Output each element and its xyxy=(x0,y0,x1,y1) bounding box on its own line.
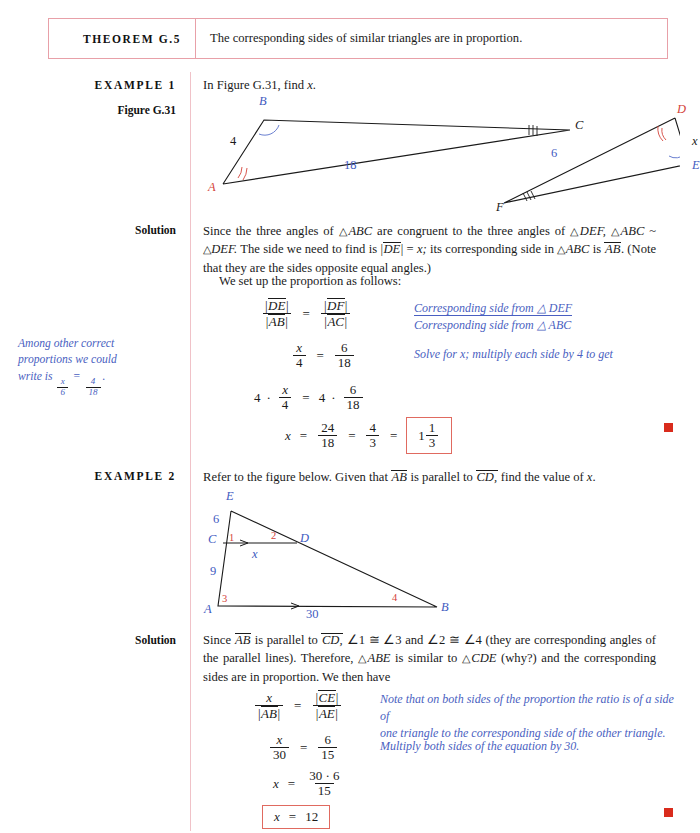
margin-note-fraction-1: x6 xyxy=(57,377,68,398)
eq2-rhs-num: 6 xyxy=(338,341,351,355)
ex2-eq2-rhs-fraction: 6 15 xyxy=(318,733,337,762)
angle-tick-f3-icon xyxy=(531,191,535,199)
ex2-eq2-rhs-num: 6 xyxy=(322,733,335,747)
example2-divider-rule xyxy=(190,463,191,831)
triangle-symbol-icon xyxy=(557,242,565,256)
sol1-tri4: DEF. xyxy=(211,242,237,256)
figure-example2: E C A D B 6 9 x 30 1 2 3 4 xyxy=(196,492,486,620)
eq4-fraction-2: 4 3 xyxy=(366,421,379,450)
eq4-equals-2: = xyxy=(348,428,355,444)
angle-arc-b-icon xyxy=(259,125,279,135)
example1-equation-1: |DE| |AB| = |DF| |AC| xyxy=(260,298,352,329)
figure-ex2-vertex-c: C xyxy=(208,532,216,547)
ex2-eq1-lhs-num: x xyxy=(263,691,275,705)
figure-ex2-vertex-e: E xyxy=(226,489,234,504)
ex2-answer-equals: = xyxy=(289,809,296,825)
eq2-rhs-fraction: 6 18 xyxy=(335,341,354,370)
eq3-dot-1: · xyxy=(267,390,271,406)
example2-annotation-1: Note that on both sides of the proportio… xyxy=(380,691,684,742)
eq3-rhs-num: 6 xyxy=(347,383,360,397)
eq2-lhs-den: 4 xyxy=(293,355,306,370)
eq3-lhs-den: 4 xyxy=(279,397,292,412)
example2-answer-row: x = 12 xyxy=(262,805,330,829)
answer1-den: 3 xyxy=(426,435,439,450)
figure-ex2-angle-4: 4 xyxy=(392,592,397,603)
figure-ex2-angle-3: 3 xyxy=(222,593,227,604)
sol1-seg7: its corresponding side in xyxy=(427,242,558,256)
theorem-label: THEOREM G.5 xyxy=(83,33,181,45)
example1-equation-4: x = 24 18 = 4 3 = 1 1 3 xyxy=(285,417,452,454)
sol1-tri3: ABC xyxy=(621,224,645,238)
eq4-fraction-1: 24 18 xyxy=(318,421,337,450)
eq2-lhs-fraction: x 4 xyxy=(293,341,306,370)
eq2-equals: = xyxy=(317,348,324,364)
sol1-x: x; xyxy=(417,242,427,256)
figure-g31-vertex-f: F xyxy=(496,200,504,215)
eq4-f1-num: 24 xyxy=(318,421,337,435)
ex2-eq1-rhs-num: |CE| xyxy=(312,690,341,705)
figure-g31-vertex-c: C xyxy=(575,118,583,133)
ex2-sol-seg2: is parallel to xyxy=(251,633,321,647)
ex2-sol-segment-ab: AB xyxy=(235,633,251,647)
triangle-symbol-icon xyxy=(611,224,621,238)
example1-solution-paragraph-1: Since the three angles of ABC are congru… xyxy=(203,222,656,277)
example1-prompt-pre: In Figure G.31, find xyxy=(203,78,307,92)
ex2-answer-variable: x xyxy=(274,809,280,825)
figure-ex2-angle-2: 2 xyxy=(271,530,276,541)
example1-prompt-post: . xyxy=(313,78,316,92)
figure-g31-side-4: 4 xyxy=(230,134,236,149)
figure-g31-vertex-d: D xyxy=(677,102,686,117)
eq3-rhs-fraction: 6 18 xyxy=(344,383,363,412)
example2-equation-1: x |AB| = |CE| |AE| xyxy=(253,690,343,721)
sol1-seg6: | = xyxy=(401,242,417,256)
eq1-lhs-den: |AB| xyxy=(263,313,291,329)
eq1-rhs-den: |AC| xyxy=(321,313,350,329)
figure-ex2-side-9: 9 xyxy=(210,564,216,579)
ex2-annot1-line1: Note that on both sides of the proportio… xyxy=(380,692,674,723)
eq3-equals: = xyxy=(302,390,309,406)
sol1-tri2: DEF, xyxy=(580,224,606,238)
answer1-num: 1 xyxy=(426,421,439,435)
ex2-eq3-fraction: 30 · 6 15 xyxy=(306,769,342,798)
example2-solution-label: Solution xyxy=(26,634,176,646)
eq4-f1-den: 18 xyxy=(318,435,337,450)
angle-tick-f2-icon xyxy=(527,192,531,200)
figure-ex2-side-30: 30 xyxy=(306,607,319,622)
sol1-seg5: The side we need to find is | xyxy=(237,242,383,256)
ex2-eq2-rhs-den: 15 xyxy=(318,747,337,762)
example1-equation-2: x 4 = 6 18 xyxy=(291,341,356,370)
margin-f1-den: 6 xyxy=(57,387,68,398)
example1-answer-box: 1 1 3 xyxy=(406,417,452,454)
sol1-seg8: is xyxy=(589,242,604,256)
angle-arc-e-icon xyxy=(669,154,680,158)
example1-label: EXAMPLE 1 xyxy=(26,79,176,91)
eq2-rhs-den: 18 xyxy=(335,355,354,370)
example2-label: EXAMPLE 2 xyxy=(26,470,176,482)
eq4-f2-num: 4 xyxy=(366,421,379,435)
margin-note-line2: proportions we could xyxy=(18,353,117,366)
triangle-abc-outline xyxy=(223,120,570,184)
theorem-label-cell: THEOREM G.5 xyxy=(49,19,196,58)
ex2-answer-value: 12 xyxy=(305,809,318,825)
eq1-lhs-num: |DE| xyxy=(262,298,292,313)
figure-g31-label: Figure G.31 xyxy=(26,104,176,116)
eq1-equals: = xyxy=(303,306,310,322)
eq1-rhs-fraction: |DF| |AC| xyxy=(321,298,351,329)
figure-g31-drawing xyxy=(196,96,680,208)
ex2-eq3-den: 15 xyxy=(315,783,334,798)
figure-g31-vertex-b: B xyxy=(259,94,267,109)
eq3-rcoef: 4 xyxy=(319,390,326,406)
sol1-seg4: ~ xyxy=(644,224,656,238)
eq1-rhs-num: |DF| xyxy=(321,298,351,313)
figure-g31-side-18: 18 xyxy=(344,158,357,173)
ex2-segment-cd: CD, xyxy=(476,470,498,484)
figure-g31-vertex-e: E xyxy=(692,158,700,173)
margin-note-line1: Among other correct xyxy=(18,337,114,350)
eq4-variable: x xyxy=(285,428,291,444)
eq3-lhs-num: x xyxy=(279,383,291,397)
ex2-sol-segment-cd: CD, xyxy=(321,633,343,647)
eq3-dot-2: · xyxy=(331,390,335,406)
ex2-prompt-seg1: Refer to the figure below. Given that xyxy=(203,470,391,484)
angle-tick-a1-icon xyxy=(238,167,242,178)
sol1-segment-ab: AB xyxy=(604,242,620,256)
